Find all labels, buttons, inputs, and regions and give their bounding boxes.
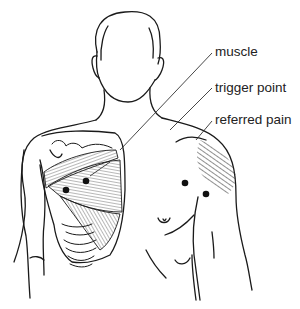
neck-right bbox=[150, 88, 162, 118]
trigger-point-dot bbox=[182, 180, 189, 187]
referred-pain-area bbox=[197, 140, 236, 194]
label-referred-pain: referred pain bbox=[215, 112, 292, 127]
neck-left bbox=[96, 90, 105, 120]
head-outline bbox=[92, 12, 164, 102]
trigger-point-dot bbox=[203, 191, 210, 198]
trigger-point-dot bbox=[63, 187, 70, 194]
label-trigger-point: trigger point bbox=[215, 80, 286, 95]
label-muscle: muscle bbox=[215, 44, 258, 59]
trigger-point-diagram: muscle trigger point referred pain bbox=[0, 0, 300, 309]
trigger-point-dot bbox=[83, 178, 90, 185]
